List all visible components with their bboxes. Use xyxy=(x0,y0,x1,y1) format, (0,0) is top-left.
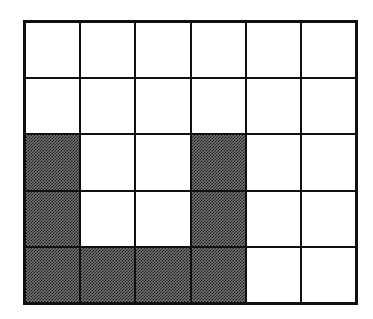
cell-r4c6 xyxy=(302,192,355,246)
cell-r4c1 xyxy=(26,192,79,246)
cell-r2c5 xyxy=(247,79,300,133)
cell-r5c1 xyxy=(26,248,79,302)
cell-r1c5 xyxy=(247,23,300,77)
cell-r5c4 xyxy=(192,248,245,302)
cell-r5c3 xyxy=(136,248,189,302)
cell-r1c6 xyxy=(302,23,355,77)
cell-r2c4 xyxy=(192,79,245,133)
cell-r3c1 xyxy=(26,135,79,189)
cell-r2c3 xyxy=(136,79,189,133)
cell-r5c2 xyxy=(81,248,134,302)
cell-r4c2 xyxy=(81,192,134,246)
cell-r4c5 xyxy=(247,192,300,246)
cell-r3c4 xyxy=(192,135,245,189)
cell-r3c2 xyxy=(81,135,134,189)
cell-r3c3 xyxy=(136,135,189,189)
cell-r2c2 xyxy=(81,79,134,133)
cell-r5c5 xyxy=(247,248,300,302)
cell-r4c4 xyxy=(192,192,245,246)
cell-r1c2 xyxy=(81,23,134,77)
cell-r5c6 xyxy=(302,248,355,302)
cell-r2c1 xyxy=(26,79,79,133)
cell-r2c6 xyxy=(302,79,355,133)
cell-r3c5 xyxy=(247,135,300,189)
cell-r1c1 xyxy=(26,23,79,77)
cell-r4c3 xyxy=(136,192,189,246)
cell-r1c4 xyxy=(192,23,245,77)
cell-r1c3 xyxy=(136,23,189,77)
cell-r3c6 xyxy=(302,135,355,189)
shaded-grid-figure xyxy=(23,20,358,305)
